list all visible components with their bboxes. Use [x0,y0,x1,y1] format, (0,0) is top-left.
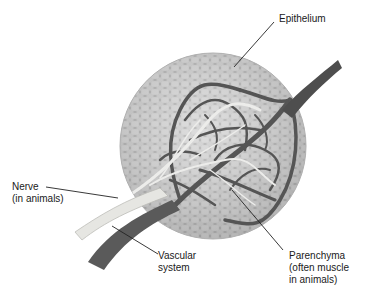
label-parenchyma: Parenchyma (often muscle in animals) [289,250,349,286]
label-vascular-system: Vascular system [158,250,196,274]
tissue-diagram [0,0,365,291]
label-nerve: Nerve (in animals) [12,181,64,205]
label-epithelium: Epithelium [279,13,326,25]
vascular-trunk-right [282,60,342,118]
